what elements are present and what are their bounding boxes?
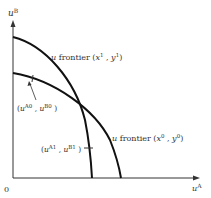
origin-label: 0	[4, 185, 9, 194]
point-A0-B0-tick	[32, 75, 33, 82]
frontier-label-x1-y1: u frontier (x1 , y1)	[51, 52, 122, 62]
frontier-label-x0-y0: u frontier (x0 , y0)	[112, 133, 183, 143]
utility-frontier-diagram: uB uA 0 u frontier (x1 , y1) u frontier …	[0, 0, 211, 198]
point-label-A1-B1: (uA1 , uB1 )	[41, 144, 81, 154]
x-axis-arrow-icon	[193, 176, 200, 181]
pointer-arrow-icon	[28, 81, 32, 86]
point-label-A0-B0: (uA0 , uB0 )	[17, 103, 57, 113]
y-axis-label: uB	[8, 7, 19, 18]
y-axis-arrow-icon	[11, 20, 16, 27]
x-axis-label: uA	[192, 182, 202, 193]
frontier-curve-x0-y0	[13, 73, 121, 178]
point-A0-B0-pointer	[30, 84, 36, 100]
